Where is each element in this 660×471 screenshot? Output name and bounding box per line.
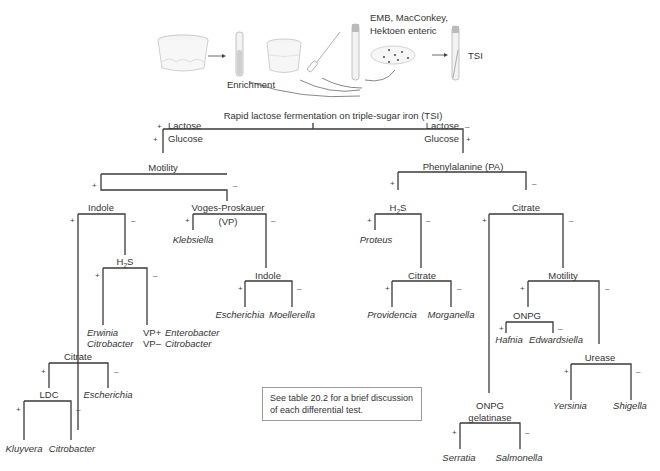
genus-klebsiella: Klebsiella <box>173 234 214 245</box>
plus-sign: + <box>564 366 569 377</box>
minus-sign: – <box>271 215 275 226</box>
genus-shigella: Shigella <box>613 400 647 411</box>
onpg-gelatinase-test: gelatinase <box>468 412 511 423</box>
plus-sign: + <box>238 283 243 294</box>
genus-proteus: Proteus <box>360 234 393 245</box>
onpg-gelatinase-test: ONPG <box>476 400 504 411</box>
plus-sign: + <box>466 134 471 145</box>
plus-sign: + <box>385 283 390 294</box>
ldc-test: LDC <box>39 389 58 400</box>
genus-enterobacter: Enterobacter <box>165 327 219 338</box>
genus-morganella: Morganella <box>428 309 475 320</box>
identification-flowchart: Enrichment EMB, MacConkey, Hektoen enter… <box>0 0 660 471</box>
genus-citrobacter: Citrobacter <box>49 443 95 454</box>
beaker-icon <box>267 39 301 73</box>
indole-test: Indole <box>255 270 281 281</box>
onpg-test: ONPG <box>513 310 541 321</box>
genus-moellerella: Moellerella <box>269 309 315 320</box>
plus-sign: + <box>95 270 100 281</box>
phenylalanine-test: Phenylalanine (PA) <box>423 161 504 172</box>
minus-sign: – <box>569 215 573 226</box>
plus-sign: + <box>390 178 395 189</box>
genus-erwinia: Erwinia <box>87 327 118 338</box>
plus-sign: + <box>157 121 162 132</box>
motility-test: Motility <box>148 162 178 173</box>
genus-serratia: Serratia <box>442 452 475 463</box>
minus-sign: – <box>153 270 157 281</box>
arrow-icon <box>432 53 448 57</box>
minus-sign: – <box>525 427 529 438</box>
citrate-test: Citrate <box>512 202 540 213</box>
vp-positive-label: VP+ <box>143 327 161 338</box>
minus-sign: – <box>131 215 135 226</box>
vp-abbreviation: (VP) <box>219 216 238 227</box>
h2s-test: H2S <box>117 256 134 271</box>
minus-sign: – <box>426 215 430 226</box>
plus-sign: + <box>499 323 504 334</box>
plus-sign: + <box>367 215 372 226</box>
minus-sign: – <box>532 178 536 189</box>
glucose-positive-label: Glucose <box>168 133 203 144</box>
media-label-line1: EMB, MacConkey, <box>370 12 448 23</box>
plus-sign: + <box>452 427 457 438</box>
tsi-label: TSI <box>468 50 483 61</box>
minus-sign: – <box>233 180 237 191</box>
minus-sign: – <box>465 121 469 132</box>
minus-sign: – <box>605 283 609 294</box>
plus-sign: + <box>185 215 190 226</box>
minus-sign: – <box>76 404 80 415</box>
indole-test: Indole <box>88 202 114 213</box>
reference-note-box: See table 20.2 for a brief discussion of… <box>262 387 422 421</box>
minus-sign: – <box>114 366 118 377</box>
media-label-line2: Hektoen enteric <box>370 25 437 36</box>
motility-test: Motility <box>548 270 578 281</box>
genus-edwardsiella: Edwardsiella <box>529 334 583 345</box>
enrichment-label: Enrichment <box>227 79 275 90</box>
culture-tube-icon <box>352 24 359 80</box>
pipette-icon <box>307 32 340 73</box>
minus-sign: – <box>297 283 301 294</box>
plus-sign: + <box>153 134 158 145</box>
minus-sign: – <box>457 283 461 294</box>
plus-sign: + <box>70 215 75 226</box>
genus-salmonella: Salmonella <box>496 452 543 463</box>
lactose-positive-label: Lactose <box>168 120 201 131</box>
plus-sign: + <box>16 404 21 415</box>
genus-escherichia: Escherichia <box>83 389 132 400</box>
glucose-positive-label: Glucose <box>424 133 459 144</box>
genus-yersinia: Yersinia <box>553 400 587 411</box>
minus-sign: – <box>636 366 640 377</box>
genus-kluyvera: Kluyvera <box>6 443 43 454</box>
citrate-test: Citrate <box>64 351 92 362</box>
plus-sign: + <box>482 215 487 226</box>
genus-hafnia: Hafnia <box>495 334 522 345</box>
plus-sign: + <box>41 366 46 377</box>
genus-providencia: Providencia <box>367 309 417 320</box>
tsi-tube-icon <box>452 26 459 80</box>
voges-proskauer-test: Voges-Proskauer <box>192 202 265 213</box>
minus-sign: – <box>558 323 562 334</box>
h2s-test: H2S <box>390 202 407 217</box>
urease-test: Urease <box>585 352 616 363</box>
arrow-icon <box>208 54 226 58</box>
plus-sign: + <box>92 180 97 191</box>
citrate-test: Citrate <box>408 270 436 281</box>
enrichment-tube-icon <box>236 32 243 76</box>
genus-citrobacter: Citrobacter <box>87 338 133 349</box>
genus-citrobacter: Citrobacter <box>165 338 211 349</box>
agar-plate-icon <box>371 46 415 64</box>
sample-container-icon <box>158 35 208 71</box>
lactose-negative-label: Lactose <box>426 120 459 131</box>
vp-negative-label: VP– <box>143 338 161 349</box>
plus-sign: + <box>520 283 525 294</box>
root-test-title: Rapid lactose fermentation on triple-sug… <box>224 110 443 121</box>
genus-escherichia: Escherichia <box>215 309 264 320</box>
